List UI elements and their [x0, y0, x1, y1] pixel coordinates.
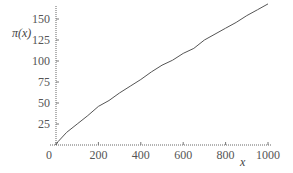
pi-curve: [56, 4, 268, 145]
y-tick-label: 25: [38, 117, 50, 131]
x-tick-label: 600: [174, 148, 192, 162]
chart: 255075100125150 02004006008001000 π(x) x: [0, 0, 293, 173]
x-tick-label: 400: [132, 148, 150, 162]
x-axis-label: x: [239, 155, 246, 169]
x-tick-label: 0: [46, 148, 52, 162]
x-tick-label: 800: [217, 148, 235, 162]
y-ticks: 255075100125150: [32, 12, 59, 131]
x-tick-label: 200: [89, 148, 107, 162]
y-tick-label: 125: [32, 33, 50, 47]
y-tick-label: 150: [32, 12, 50, 26]
y-tick-label: 75: [38, 75, 50, 89]
y-tick-label: 100: [32, 54, 50, 68]
y-axis-label: π(x): [12, 26, 31, 40]
y-tick-label: 50: [38, 96, 50, 110]
x-tick-label: 1000: [256, 148, 280, 162]
